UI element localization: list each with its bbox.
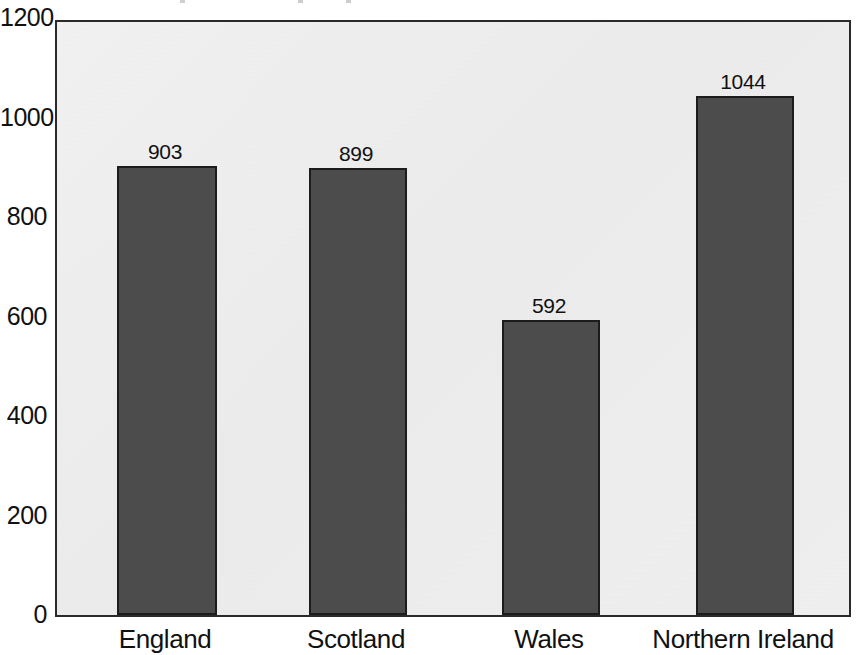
clipped-title-remnant (180, 0, 390, 3)
bar-value-label: 903 (115, 140, 215, 164)
bar-england (117, 166, 217, 615)
y-axis-tick-label: 400 (0, 401, 47, 430)
bar-chart: 120010008006004002000 9038995921044 Engl… (0, 0, 858, 655)
plot-area (55, 20, 851, 617)
y-axis-tick-label: 1200 (0, 3, 47, 32)
bar-northern-ireland (696, 96, 794, 615)
bar-value-label: 1044 (694, 70, 792, 94)
bar-scotland (309, 168, 407, 615)
x-axis-tick-label: Northern Ireland (583, 624, 858, 655)
y-axis-tick-label: 800 (0, 202, 47, 231)
bar-wales (502, 320, 600, 615)
bar-value-label: 899 (307, 142, 405, 166)
bar-value-label: 592 (500, 294, 598, 318)
y-axis-tick-label: 1000 (0, 103, 47, 132)
y-axis-tick-label: 200 (0, 501, 47, 530)
y-axis-tick-label: 600 (0, 302, 47, 331)
